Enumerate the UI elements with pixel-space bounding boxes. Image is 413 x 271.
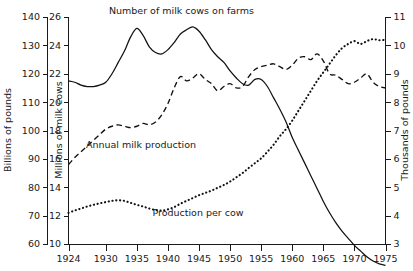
axis-left-outer: 60708090100110120130140 Billions of poun… (2, 11, 48, 249)
right-tick-label: 4 (394, 210, 400, 221)
axis-x-tick-label: 1940 (156, 253, 180, 264)
left-inner-tick-label: 12 (49, 210, 61, 221)
chart-svg: 60708090100110120130140 Billions of poun… (0, 0, 413, 271)
right-tick-label: 10 (394, 40, 406, 51)
left-inner-tick-label: 14 (49, 182, 61, 193)
axis-right: 34567891011 Thousands of pounds (386, 11, 411, 249)
left-outer-tick-label: 80 (28, 182, 40, 193)
axis-x-tick-label: 1935 (125, 253, 149, 264)
axis-x-tick-label: 1950 (218, 253, 242, 264)
axis-x-ticks (69, 245, 386, 251)
axis-x-ticklabels: 1924193019351940194519501955196019651970… (56, 253, 397, 264)
axis-x-tick-label: 1945 (187, 253, 211, 264)
axis-x-tick-label: 1924 (56, 253, 80, 264)
left-inner-tick-label: 22 (49, 68, 61, 79)
axis-x-tick-label: 1960 (280, 253, 304, 264)
chart-container: 60708090100110120130140 Billions of poun… (0, 0, 413, 271)
left-inner-tick-label: 24 (49, 40, 61, 51)
annotation-production-per-cow: Production per cow (152, 207, 243, 218)
axis-right-ticks (386, 18, 391, 245)
axis-x-tick-label: 1955 (249, 253, 273, 264)
left-outer-tick-label: 70 (28, 210, 40, 221)
right-tick-label: 5 (394, 182, 400, 193)
axis-x-tick-label: 1930 (94, 253, 118, 264)
left-inner-tick-label: 26 (49, 11, 61, 22)
left-outer-tick-label: 140 (22, 11, 40, 22)
left-outer-tick-label: 60 (28, 238, 40, 249)
axis-right-title: Thousands of pounds (399, 79, 410, 182)
axis-left-outer-ticks (43, 18, 48, 245)
axis-left-inner-title: Millions of milk cows (53, 81, 64, 179)
right-tick-label: 9 (394, 68, 400, 79)
left-outer-tick-label: 90 (28, 153, 40, 164)
axis-left-inner-ticks (64, 18, 69, 245)
left-outer-tick-label: 100 (22, 125, 40, 136)
axis-left-outer-ticklabels: 60708090100110120130140 (22, 11, 40, 249)
annotations-group: Number of milk cows on farms Annual milk… (86, 5, 254, 217)
right-tick-label: 11 (394, 11, 406, 22)
left-outer-tick-label: 110 (22, 97, 40, 108)
annotation-milk-cows: Number of milk cows on farms (109, 5, 254, 16)
axis-x: 1924193019351940194519501955196019651970… (56, 245, 397, 265)
annotation-annual-production: Annual milk production (86, 139, 196, 150)
left-outer-tick-label: 130 (22, 40, 40, 51)
axis-x-tick-label: 1965 (311, 253, 335, 264)
right-tick-label: 3 (394, 238, 400, 249)
axis-x-tick-label: 1970 (342, 253, 366, 264)
left-inner-tick-label: 10 (49, 238, 61, 249)
axis-left-outer-title: Billions of pounds (2, 88, 13, 172)
axis-left-inner: 101214161820222426 Millions of milk cows (49, 11, 69, 249)
left-outer-tick-label: 120 (22, 68, 40, 79)
